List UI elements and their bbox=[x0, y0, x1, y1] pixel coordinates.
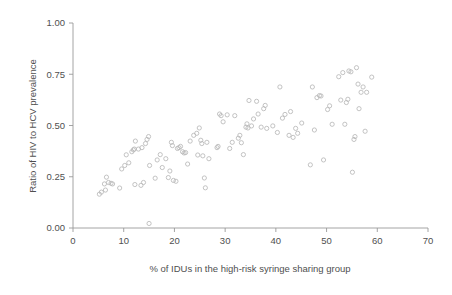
data-point bbox=[308, 163, 312, 167]
data-point bbox=[254, 99, 258, 103]
data-point bbox=[120, 167, 124, 171]
data-point bbox=[147, 221, 151, 225]
x-tick-label: 40 bbox=[271, 235, 282, 246]
data-point bbox=[207, 157, 211, 161]
axis-lines bbox=[73, 23, 428, 228]
x-tick-label: 50 bbox=[321, 235, 332, 246]
data-point bbox=[203, 186, 207, 190]
y-axis-tick-marks bbox=[69, 23, 73, 228]
data-point bbox=[291, 135, 295, 139]
data-point bbox=[221, 120, 225, 124]
data-point bbox=[124, 153, 128, 157]
data-point bbox=[312, 128, 316, 132]
data-point bbox=[288, 109, 292, 113]
data-point bbox=[356, 82, 360, 86]
data-point bbox=[171, 178, 175, 182]
data-point bbox=[294, 126, 298, 130]
data-point bbox=[160, 165, 164, 169]
data-point bbox=[147, 163, 151, 167]
data-point bbox=[192, 133, 196, 137]
chart-canvas: 0.000.250.500.751.00 010203040506070 Rat… bbox=[0, 0, 452, 295]
data-point bbox=[278, 85, 282, 89]
data-point bbox=[287, 133, 291, 137]
data-point bbox=[133, 139, 137, 143]
data-point bbox=[174, 179, 178, 183]
data-point bbox=[328, 104, 332, 108]
data-point bbox=[370, 75, 374, 79]
data-point bbox=[197, 126, 201, 130]
scatter-plot-figure: 0.000.250.500.751.00 010203040506070 Rat… bbox=[0, 0, 452, 295]
data-point bbox=[357, 107, 361, 111]
data-point bbox=[230, 140, 234, 144]
data-point bbox=[256, 112, 260, 116]
data-point bbox=[259, 125, 263, 129]
data-point bbox=[141, 180, 145, 184]
x-tick-label: 10 bbox=[118, 235, 129, 246]
data-point bbox=[251, 117, 255, 121]
y-axis-tick-labels: 0.000.250.500.751.00 bbox=[47, 17, 66, 233]
data-point bbox=[249, 124, 253, 128]
y-axis-title: Ratio of HIV to HCV prevalence bbox=[27, 59, 38, 193]
data-point bbox=[166, 175, 170, 179]
x-tick-label: 30 bbox=[220, 235, 231, 246]
data-point bbox=[102, 182, 106, 186]
data-point bbox=[321, 158, 325, 162]
data-point bbox=[354, 66, 358, 70]
data-point-series bbox=[97, 66, 374, 226]
data-point bbox=[275, 130, 279, 134]
data-point bbox=[118, 186, 122, 190]
data-point bbox=[228, 146, 232, 150]
data-point bbox=[103, 188, 107, 192]
data-point bbox=[359, 90, 363, 94]
data-point bbox=[296, 131, 300, 135]
data-point bbox=[339, 98, 343, 102]
x-axis-tick-labels: 010203040506070 bbox=[70, 235, 433, 246]
data-point bbox=[225, 113, 229, 117]
y-tick-label: 0.75 bbox=[47, 69, 66, 80]
data-point bbox=[310, 85, 314, 89]
data-point bbox=[341, 71, 345, 75]
data-point bbox=[133, 182, 137, 186]
x-tick-label: 20 bbox=[169, 235, 180, 246]
data-point bbox=[205, 140, 209, 144]
y-tick-label: 0.50 bbox=[47, 120, 66, 131]
y-tick-label: 0.00 bbox=[47, 222, 66, 233]
data-point bbox=[106, 180, 110, 184]
data-point bbox=[158, 153, 162, 157]
data-point bbox=[239, 141, 243, 145]
data-point bbox=[143, 141, 147, 145]
data-point bbox=[363, 129, 367, 133]
data-point bbox=[104, 175, 108, 179]
data-point bbox=[330, 122, 334, 126]
data-point bbox=[188, 139, 192, 143]
data-point bbox=[233, 114, 237, 118]
data-point bbox=[343, 122, 347, 126]
data-point bbox=[300, 121, 304, 125]
data-point bbox=[337, 75, 341, 79]
data-point bbox=[201, 154, 205, 158]
data-point bbox=[153, 176, 157, 180]
x-tick-label: 60 bbox=[372, 235, 383, 246]
data-point bbox=[202, 176, 206, 180]
x-tick-label: 0 bbox=[70, 235, 75, 246]
x-tick-label: 70 bbox=[423, 235, 434, 246]
x-axis-tick-marks bbox=[73, 228, 428, 232]
data-point bbox=[186, 162, 190, 166]
data-point bbox=[123, 163, 127, 167]
y-tick-label: 1.00 bbox=[47, 17, 66, 28]
data-point bbox=[283, 112, 287, 116]
x-axis-title: % of IDUs in the high-risk syringe shari… bbox=[149, 263, 350, 274]
data-point bbox=[216, 144, 220, 148]
data-point bbox=[241, 153, 245, 157]
data-point bbox=[127, 161, 131, 165]
y-tick-label: 0.25 bbox=[47, 171, 66, 182]
data-point bbox=[164, 157, 168, 161]
data-point bbox=[350, 170, 354, 174]
data-point bbox=[365, 90, 369, 94]
data-point bbox=[247, 98, 251, 102]
data-point bbox=[168, 169, 172, 173]
data-point bbox=[196, 153, 200, 157]
data-point bbox=[271, 124, 275, 128]
data-point bbox=[195, 131, 199, 135]
data-point bbox=[155, 158, 159, 162]
